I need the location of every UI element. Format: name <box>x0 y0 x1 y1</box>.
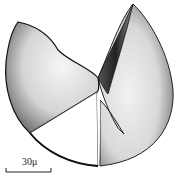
illustration: 30μ <box>0 0 179 181</box>
scale-bar <box>6 168 51 172</box>
shell-drawing <box>0 0 179 181</box>
scale-bar-label: 30μ <box>22 156 37 167</box>
